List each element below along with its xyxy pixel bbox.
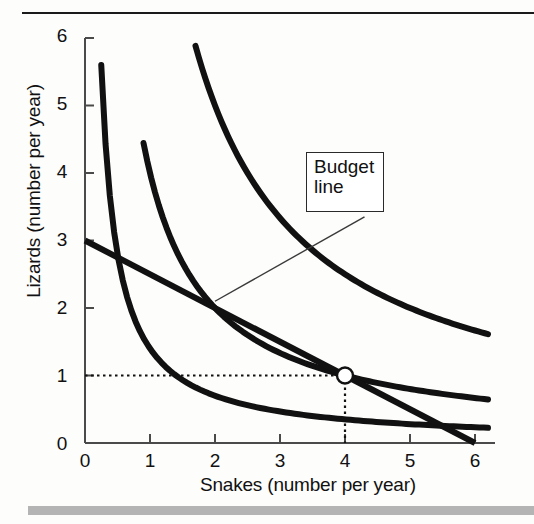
guide-lines-group — [85, 376, 345, 444]
plot-svg — [0, 0, 534, 524]
annotation-line-1: Budget — [314, 157, 377, 177]
budget-line-annotation-box: Budget line — [306, 152, 384, 212]
x-axis-ticks — [150, 434, 475, 443]
axes-group — [85, 38, 495, 443]
indifference-curves-group — [101, 46, 488, 428]
point-markers-group — [337, 368, 353, 384]
annotation-line-2: line — [314, 177, 377, 197]
figure-container: Lizards (number per year) Snakes (number… — [0, 0, 534, 524]
y-axis-ticks — [85, 38, 94, 376]
